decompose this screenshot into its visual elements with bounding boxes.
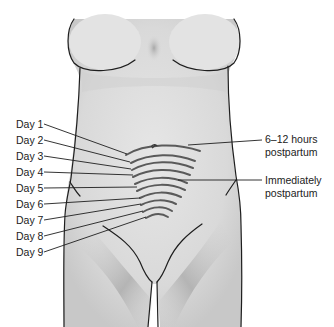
label-immediately-line2: postpartum	[265, 187, 318, 199]
diagram-canvas: Day 1 Day 2 Day 3 Day 4 Day 5 Day 6 Day …	[0, 0, 334, 327]
label-day-8: Day 8	[16, 230, 44, 242]
breast-right	[169, 14, 241, 70]
label-6-12-hours-line2: postpartum	[265, 146, 318, 158]
breast-left	[69, 14, 141, 70]
label-day-6: Day 6	[16, 198, 44, 210]
uterine-involution-diagram: Day 1 Day 2 Day 3 Day 4 Day 5 Day 6 Day …	[0, 0, 334, 327]
right-labels: 6–12 hours postpartum Immediately postpa…	[265, 133, 322, 199]
label-day-2: Day 2	[16, 134, 44, 146]
label-day-3: Day 3	[16, 150, 44, 162]
label-day-1: Day 1	[16, 118, 44, 130]
label-day-5: Day 5	[16, 182, 44, 194]
label-day-9: Day 9	[16, 246, 44, 258]
label-6-12-hours-line1: 6–12 hours	[265, 133, 318, 145]
left-labels: Day 1 Day 2 Day 3 Day 4 Day 5 Day 6 Day …	[16, 118, 44, 258]
label-day-7: Day 7	[16, 214, 44, 226]
cleavage-shadow	[146, 34, 162, 62]
label-immediately-line1: Immediately	[265, 174, 322, 186]
label-day-4: Day 4	[16, 166, 44, 178]
